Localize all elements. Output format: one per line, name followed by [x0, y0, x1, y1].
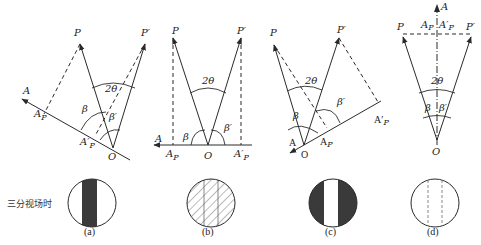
dark-stripe: [82, 176, 97, 232]
label-A-prime-P: A′P: [79, 136, 96, 150]
field-view-c: (c): [308, 176, 358, 238]
axis-A-arrowhead: [434, 4, 440, 12]
panel-d: A P P′ AP A′P O 2θ β β′: [396, 1, 476, 157]
label-P: P: [269, 27, 277, 38]
projection-P-prime: [95, 44, 145, 136]
hatched-fill: [186, 178, 236, 228]
field-view-a: (a): [68, 176, 116, 238]
label-A-P: AP: [33, 108, 47, 122]
label-P-prime: P′: [465, 21, 476, 32]
label-A-prime-P: A′P: [233, 148, 250, 162]
label-2theta: 2θ: [430, 75, 443, 86]
label-P: P: [171, 25, 179, 36]
label-2theta: 2θ: [104, 83, 117, 94]
arc-beta-prime: [211, 130, 225, 145]
label-2theta: 2θ: [304, 75, 317, 86]
vector-P-prime: [437, 37, 471, 140]
label-A-P: AP: [420, 19, 434, 32]
vector-P: [173, 38, 208, 145]
side-label-three-part-field: 三分视场时: [7, 198, 52, 209]
vector-P: [403, 37, 437, 140]
label-P: P: [73, 27, 81, 38]
label-A-P: AP: [165, 148, 179, 162]
label-A: A: [154, 133, 162, 144]
label-A-prime-P: A′P: [374, 114, 389, 127]
label-O: O: [301, 149, 308, 160]
caption-a: (a): [84, 226, 95, 238]
label-P-prime: P′: [140, 27, 151, 38]
vector-P: [274, 45, 304, 145]
vector-P-prime: [113, 44, 145, 148]
label-beta: β: [182, 131, 189, 142]
label-A-P: AP: [320, 136, 333, 149]
label-beta-prime: β′: [108, 111, 118, 122]
arc-beta: [288, 126, 318, 133]
label-beta: β: [424, 102, 431, 113]
light-stripe: [324, 176, 338, 232]
caption-d: (d): [427, 226, 439, 238]
projection-P: [44, 44, 80, 114]
caption-c: (c): [325, 226, 336, 238]
field-view-b: (b): [186, 176, 236, 238]
label-2theta: 2θ: [201, 75, 214, 86]
label-beta: β: [292, 110, 299, 121]
label-O: O: [108, 151, 116, 162]
label-beta: β: [81, 103, 88, 114]
projection-P-prime: [339, 38, 378, 102]
label-P-prime: P′: [336, 24, 347, 35]
label-beta-prime: β′: [438, 102, 448, 113]
polarimeter-diagram: P P′ A AP A′P O 2θ β β′ P P′ A AP A′P O …: [0, 0, 481, 245]
label-P-prime: P′: [236, 25, 247, 36]
label-O: O: [432, 146, 440, 157]
field-circle: [411, 179, 459, 227]
label-A: A: [289, 137, 297, 148]
field-view-d: (d): [411, 179, 459, 238]
arc-2theta: [287, 86, 322, 91]
arc-beta: [191, 130, 205, 145]
label-P: P: [396, 21, 404, 32]
panel-c: P P′ A AP A′P O 2θ β β′: [269, 24, 389, 160]
label-beta-prime: β′: [336, 96, 346, 107]
label-beta-prime: β′: [223, 122, 233, 133]
panel-a: P P′ A AP A′P O 2θ β β′: [22, 27, 151, 162]
label-O: O: [204, 150, 212, 161]
label-A: A: [440, 1, 448, 12]
arc-2theta: [190, 88, 226, 93]
vector-P-prime: [304, 38, 339, 145]
label-A-prime-P: A′P: [438, 19, 455, 32]
panel-b: P P′ A AP A′P O 2θ β β′: [154, 25, 252, 162]
caption-b: (b): [202, 226, 214, 238]
label-A: A: [22, 85, 30, 96]
